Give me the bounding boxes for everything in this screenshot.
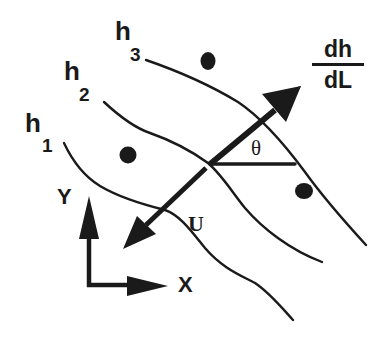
x-axis-arrow-icon	[87, 276, 168, 296]
contour-label-h1: h	[25, 110, 41, 136]
velocity-label-u: U	[188, 213, 204, 235]
point-marker	[201, 52, 216, 70]
x-axis-label: X	[178, 274, 193, 296]
gradient-diagram: h 3 h 2 h 1 dh dL θ U Y X	[0, 0, 391, 338]
contour-subscript-3: 3	[130, 45, 141, 64]
gradient-denominator: dL	[310, 69, 366, 92]
contour-subscript-2: 2	[79, 85, 90, 104]
gradient-label: dh dL	[310, 38, 366, 92]
velocity-arrow-icon	[123, 168, 206, 249]
gradient-numerator: dh	[310, 38, 366, 62]
y-axis-arrow-icon	[79, 196, 99, 287]
y-axis-label: Y	[57, 186, 72, 208]
fraction-bar	[312, 63, 364, 66]
contour-subscript-1: 1	[42, 136, 53, 155]
contour-label-h2: h	[64, 58, 80, 84]
point-marker	[295, 183, 313, 199]
angle-label-theta: θ	[251, 138, 261, 159]
contour-label-h3: h	[115, 18, 131, 44]
point-marker	[120, 147, 137, 164]
